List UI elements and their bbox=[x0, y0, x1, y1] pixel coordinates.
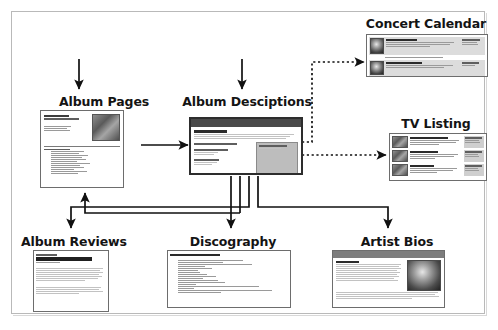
label-discography: Discography bbox=[181, 234, 285, 249]
album-descriptions-sidebar bbox=[256, 142, 298, 175]
artist-bios-thumbnail[interactable] bbox=[332, 250, 445, 308]
label-album-descriptions: Album Desciptions bbox=[182, 94, 312, 109]
tv-thumbnail-3 bbox=[392, 164, 408, 176]
tv-thumbnail-1 bbox=[392, 136, 408, 148]
album-reviews-thumbnail[interactable] bbox=[33, 250, 109, 312]
label-album-pages: Album Pages bbox=[50, 94, 158, 109]
album-pages-thumbnail[interactable] bbox=[40, 110, 124, 188]
album-descriptions-thumbnail[interactable] bbox=[189, 117, 303, 175]
diagram-canvas: Album Pages bbox=[0, 0, 498, 330]
discography-thumbnail[interactable] bbox=[167, 250, 291, 308]
concert-calendar-thumbnail[interactable] bbox=[366, 34, 488, 77]
label-album-reviews: Album Reviews bbox=[21, 234, 121, 249]
artist-portrait-image bbox=[407, 260, 441, 291]
tv-thumbnail-2 bbox=[392, 150, 408, 162]
label-concert-calendar: Concert Calendar bbox=[363, 16, 489, 31]
tv-listing-thumbnail[interactable] bbox=[389, 133, 487, 181]
concert-artist-photo-2 bbox=[370, 61, 384, 75]
label-tv-listing: TV Listing bbox=[388, 116, 484, 131]
label-artist-bios: Artist Bios bbox=[352, 234, 442, 249]
album-cover-image bbox=[92, 114, 120, 141]
concert-artist-photo-1 bbox=[370, 38, 384, 54]
